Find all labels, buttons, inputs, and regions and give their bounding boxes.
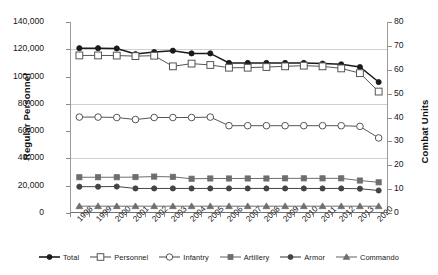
data-point bbox=[77, 46, 82, 51]
data-point bbox=[77, 175, 82, 180]
data-point bbox=[357, 64, 362, 69]
data-point bbox=[208, 176, 213, 181]
data-point bbox=[77, 184, 82, 189]
data-point bbox=[283, 186, 288, 191]
legend-item-artillery[interactable]: Artillery bbox=[220, 252, 270, 262]
data-point bbox=[189, 51, 194, 56]
legend-marker-icon bbox=[39, 252, 60, 262]
data-point bbox=[283, 176, 288, 181]
legend-marker-icon bbox=[159, 252, 180, 262]
series-infantry bbox=[76, 114, 382, 141]
legend-label: Infantry bbox=[183, 253, 208, 262]
data-point bbox=[133, 186, 138, 191]
data-point bbox=[244, 122, 251, 129]
data-point bbox=[114, 46, 119, 51]
legend-marker-icon bbox=[220, 252, 241, 262]
data-point bbox=[170, 114, 177, 121]
data-point bbox=[338, 122, 345, 129]
chart-legend: TotalPersonnelInfantryArtilleryArmorComm… bbox=[0, 252, 438, 262]
data-point bbox=[282, 122, 289, 129]
data-point bbox=[338, 65, 345, 72]
data-point bbox=[188, 114, 195, 121]
legend-label: Personnel bbox=[114, 253, 148, 262]
data-point bbox=[152, 174, 157, 179]
legend-item-infantry[interactable]: Infantry bbox=[159, 252, 208, 262]
data-point bbox=[76, 52, 83, 59]
data-point bbox=[301, 186, 306, 191]
data-point bbox=[226, 176, 231, 181]
data-point bbox=[263, 64, 270, 71]
data-point bbox=[76, 114, 83, 121]
data-point bbox=[170, 186, 175, 191]
data-point bbox=[319, 122, 326, 129]
data-point bbox=[114, 175, 119, 180]
data-point bbox=[357, 70, 364, 77]
data-point bbox=[95, 184, 100, 189]
data-point bbox=[114, 184, 119, 189]
data-point bbox=[264, 176, 269, 181]
data-point bbox=[132, 53, 139, 60]
data-point bbox=[189, 176, 194, 181]
data-point bbox=[207, 62, 214, 69]
data-point bbox=[320, 176, 325, 181]
legend-marker-icon bbox=[280, 252, 301, 262]
data-point bbox=[320, 186, 325, 191]
data-point bbox=[113, 114, 120, 121]
data-point bbox=[207, 114, 214, 121]
legend-label: Commando bbox=[360, 253, 399, 262]
series-commando bbox=[76, 203, 382, 209]
data-point bbox=[208, 51, 213, 56]
data-point bbox=[244, 64, 251, 71]
data-point bbox=[152, 186, 157, 191]
data-point bbox=[95, 114, 102, 121]
data-point bbox=[113, 52, 120, 59]
legend-label: Artillery bbox=[244, 253, 270, 262]
data-point bbox=[376, 180, 381, 185]
data-point bbox=[188, 60, 195, 67]
data-point bbox=[357, 178, 362, 183]
data-point bbox=[95, 175, 100, 180]
series-layer bbox=[0, 0, 438, 275]
data-point bbox=[301, 122, 308, 129]
data-point bbox=[357, 123, 364, 130]
data-point bbox=[282, 63, 289, 70]
legend-label: Total bbox=[63, 253, 79, 262]
legend-item-commando[interactable]: Commando bbox=[336, 252, 399, 262]
legend-marker-icon bbox=[90, 252, 111, 262]
data-point bbox=[95, 46, 100, 51]
data-point bbox=[357, 186, 362, 191]
data-point bbox=[264, 186, 269, 191]
data-point bbox=[226, 186, 231, 191]
legend-marker-icon bbox=[336, 252, 357, 262]
data-point bbox=[263, 122, 270, 129]
data-point bbox=[301, 176, 306, 181]
data-point bbox=[339, 176, 344, 181]
series-armor bbox=[77, 184, 381, 193]
data-point bbox=[169, 63, 176, 70]
data-point bbox=[375, 88, 382, 95]
data-point bbox=[339, 186, 344, 191]
data-point bbox=[208, 186, 213, 191]
data-point bbox=[170, 48, 175, 53]
data-point bbox=[170, 174, 175, 179]
legend-item-personnel[interactable]: Personnel bbox=[90, 252, 148, 262]
data-point bbox=[133, 175, 138, 180]
data-point bbox=[245, 176, 250, 181]
legend-item-armor[interactable]: Armor bbox=[280, 252, 325, 262]
data-point bbox=[151, 114, 158, 121]
chart-container: Regular Personnel Combat Units 140,00012… bbox=[0, 0, 438, 275]
data-point bbox=[189, 186, 194, 191]
data-point bbox=[245, 186, 250, 191]
data-point bbox=[95, 52, 102, 59]
data-point bbox=[376, 79, 381, 84]
data-point bbox=[132, 116, 139, 123]
series-personnel bbox=[76, 52, 382, 95]
data-point bbox=[375, 135, 382, 142]
series-artillery bbox=[77, 174, 381, 185]
legend-label: Armor bbox=[304, 253, 325, 262]
data-point bbox=[226, 64, 233, 71]
legend-item-total[interactable]: Total bbox=[39, 252, 79, 262]
data-point bbox=[319, 63, 326, 70]
data-point bbox=[151, 52, 158, 59]
data-point bbox=[376, 188, 381, 193]
